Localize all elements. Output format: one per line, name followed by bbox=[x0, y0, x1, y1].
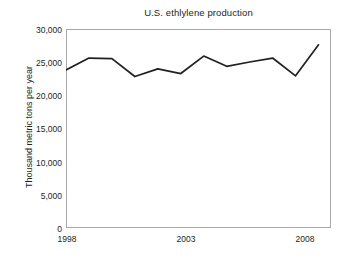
y-tick-label-0: 0 bbox=[2, 224, 62, 234]
plot-area bbox=[66, 29, 331, 228]
y-tick-label-10000: 10,000 bbox=[2, 158, 62, 168]
y-tick-label-30000: 30,000 bbox=[2, 25, 62, 35]
x-axis-tick-labels: 1998 2003 2008 bbox=[0, 234, 341, 254]
plot-svg bbox=[66, 29, 331, 228]
y-tick-label-20000: 20,000 bbox=[2, 91, 62, 101]
chart-title: U.S. ethlylene production bbox=[66, 7, 331, 18]
data-series-line bbox=[66, 45, 319, 77]
y-axis-tick-labels: 30,000 25,000 20,000 15,000 10,000 5,000… bbox=[0, 0, 62, 265]
x-tick-label-2008: 2008 bbox=[275, 234, 335, 244]
y-tick-label-5000: 5,000 bbox=[2, 191, 62, 201]
chart-figure: U.S. ethlylene production Thousand metri… bbox=[0, 0, 341, 265]
x-tick-label-2003: 2003 bbox=[156, 234, 216, 244]
x-tick-label-1998: 1998 bbox=[37, 234, 97, 244]
y-tick-label-15000: 15,000 bbox=[2, 124, 62, 134]
y-tick-label-25000: 25,000 bbox=[2, 58, 62, 68]
